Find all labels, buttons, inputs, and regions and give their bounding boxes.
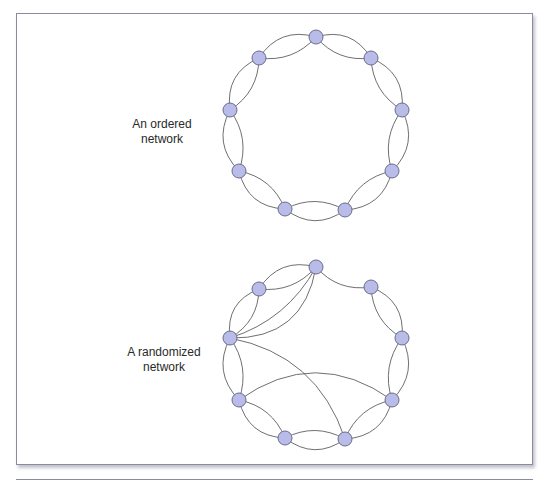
ordered-network-label: An ordered network — [107, 117, 217, 147]
node-lower-right — [385, 393, 399, 407]
node-lower-right — [385, 164, 399, 178]
edge-upper-left-top — [259, 265, 316, 289]
node-top — [309, 30, 323, 44]
edge-bottom-right-bottom-left — [285, 201, 345, 210]
node-upper-right — [364, 51, 378, 65]
edge-right-lower-right — [392, 338, 409, 400]
edge-top-left — [230, 267, 316, 338]
edge-bottom-right-bottom-left — [285, 438, 345, 450]
ordered-network-label-line1: An ordered — [107, 117, 217, 132]
ordered-network-label-line2: network — [107, 132, 217, 147]
node-right — [395, 331, 409, 345]
node-lower-left — [232, 164, 246, 178]
ordered-network-nodes — [223, 30, 409, 217]
edge-left-upper-left — [230, 58, 259, 110]
edge-bottom-right-bottom-left — [285, 430, 345, 439]
edge-lower-right-bottom-right — [345, 171, 392, 210]
bottom-rule — [16, 479, 533, 480]
node-upper-right — [364, 280, 378, 294]
randomized-network-label-line2: network — [109, 360, 219, 375]
node-upper-left — [252, 282, 266, 296]
edge-left-upper-left — [230, 289, 259, 338]
node-bottom-left — [278, 202, 292, 216]
node-bottom-right — [338, 432, 352, 446]
edge-upper-right-right — [371, 287, 402, 338]
randomized-network-label-line1: A randomized — [109, 345, 219, 360]
edge-lower-left-left — [230, 110, 243, 171]
node-left — [223, 103, 237, 117]
edge-lower-left-lower-right — [239, 373, 392, 400]
ordered-network — [223, 30, 409, 221]
edge-left-bottom-right — [230, 338, 345, 439]
edge-upper-right-right — [371, 58, 402, 110]
edge-top-left — [230, 267, 316, 338]
edge-lower-right-bottom-right — [345, 400, 392, 439]
edge-left-upper-left — [229, 289, 259, 338]
ordered-network-edges — [223, 34, 409, 220]
edge-lower-left-left — [223, 338, 239, 400]
node-upper-left — [252, 51, 266, 65]
randomized-network-nodes — [223, 260, 409, 446]
edge-bottom-right-bottom-left — [285, 209, 345, 221]
edge-lower-left-left — [223, 110, 239, 171]
edge-left-upper-left — [229, 58, 259, 110]
network-diagram — [0, 0, 548, 489]
edge-bottom-left-lower-left — [239, 400, 285, 438]
edge-bottom-left-lower-left — [239, 171, 285, 209]
edge-upper-right-right — [371, 287, 402, 338]
node-right — [395, 103, 409, 117]
edge-top-upper-right — [316, 34, 371, 58]
node-bottom-right — [338, 203, 352, 217]
randomized-network-edges — [223, 265, 409, 450]
edge-lower-left-left — [230, 338, 243, 400]
edge-upper-left-top — [259, 34, 316, 58]
edge-upper-right-right — [371, 58, 402, 110]
node-bottom-left — [278, 431, 292, 445]
randomized-network-label: A randomized network — [109, 345, 219, 375]
randomized-network — [223, 260, 409, 450]
edge-top-upper-right — [316, 267, 371, 288]
node-left — [223, 331, 237, 345]
edge-right-lower-right — [392, 110, 409, 171]
node-lower-left — [232, 393, 246, 407]
node-top — [309, 260, 323, 274]
